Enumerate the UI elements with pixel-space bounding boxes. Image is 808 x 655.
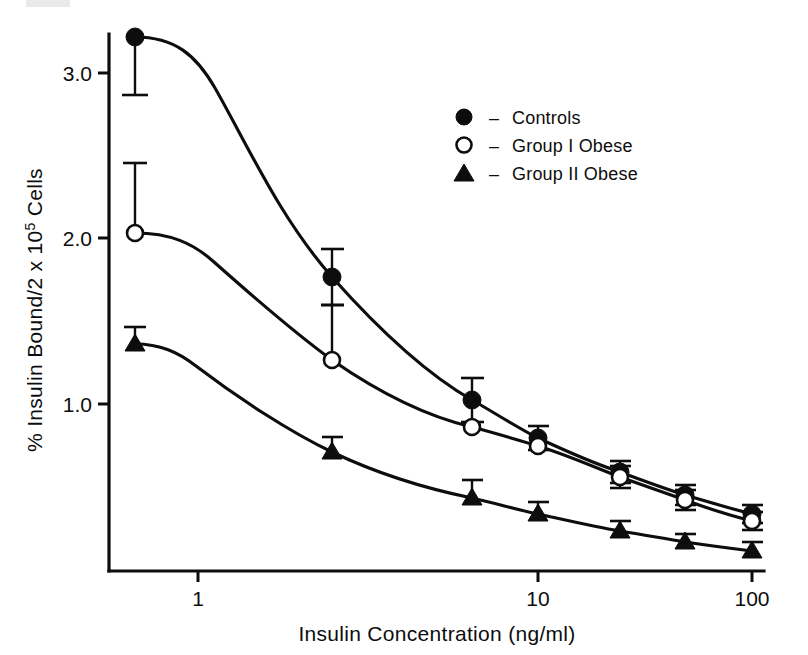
y-tick-label-2: 2.0: [63, 227, 92, 250]
series-group-ii-obese-line: [135, 344, 752, 551]
legend-filled-circle-icon: [456, 109, 472, 125]
y-tick-label-1: 1.0: [63, 393, 92, 416]
x-tick-label-100: 100: [734, 587, 769, 610]
y-axis-title-prefix: % Insulin Bound/2 x 10: [23, 230, 46, 451]
series-group-ii-obese: [124, 327, 763, 558]
y-tick-labels: 3.0 2.0 1.0: [63, 62, 92, 416]
data-point-marker: [125, 334, 145, 351]
x-tick-label-10: 10: [526, 587, 549, 610]
insulin-binding-chart: 3.0 2.0 1.0 1 10 100 Insulin Concentrati…: [0, 0, 808, 655]
legend-entry-controls: – Controls: [456, 108, 581, 128]
legend-label-group-i-obese: Group I Obese: [512, 136, 633, 156]
legend-dash: –: [489, 164, 499, 184]
data-point-marker: [324, 352, 340, 368]
y-axis-title-group: % Insulin Bound/2 x 105 Cells: [22, 168, 46, 452]
x-tick-marks: [198, 571, 752, 582]
chart-legend: – Controls – Group I Obese – Group II Ob…: [454, 108, 638, 184]
series-group-ii-obese-errorbars: [124, 327, 763, 551]
series-controls: [122, 28, 763, 523]
data-point-marker: [744, 513, 760, 529]
legend-entry-group-ii-obese: – Group II Obese: [454, 164, 638, 184]
data-point-marker: [677, 492, 693, 508]
legend-label-controls: Controls: [512, 108, 581, 128]
y-axis-title: % Insulin Bound/2 x 105 Cells: [22, 168, 46, 452]
data-point-marker: [322, 442, 342, 459]
series-group-ii-obese-markers: [125, 334, 762, 558]
data-point-marker: [126, 28, 144, 46]
data-point-marker: [463, 391, 481, 409]
legend-dash: –: [489, 108, 499, 128]
legend-entry-group-i-obese: – Group I Obese: [457, 136, 633, 156]
x-tick-label-1: 1: [192, 587, 204, 610]
data-point-marker: [530, 438, 546, 454]
data-point-marker: [323, 268, 341, 286]
data-point-marker: [464, 419, 480, 435]
series-group-i-obese-errorbars: [123, 163, 763, 530]
legend-open-circle-icon: [457, 138, 472, 153]
legend-label-group-ii-obese: Group II Obese: [512, 164, 638, 184]
x-tick-labels: 1 10 100: [192, 587, 769, 610]
legend-filled-triangle-icon: [454, 164, 474, 181]
data-point-marker: [612, 469, 628, 485]
series-group-i-obese-line: [135, 233, 752, 521]
y-axis-title-exponent: 5: [22, 222, 38, 230]
data-point-marker: [127, 225, 143, 241]
legend-dash: –: [489, 136, 499, 156]
y-tick-label-3: 3.0: [63, 62, 92, 85]
y-tick-marks: [98, 73, 109, 404]
x-axis-title: Insulin Concentration (ng/ml): [298, 622, 575, 645]
series-controls-errorbars: [122, 37, 763, 523]
figure-container: 3.0 2.0 1.0 1 10 100 Insulin Concentrati…: [0, 0, 808, 655]
series-group-i-obese: [123, 163, 763, 530]
y-axis-title-suffix: Cells: [23, 168, 46, 222]
